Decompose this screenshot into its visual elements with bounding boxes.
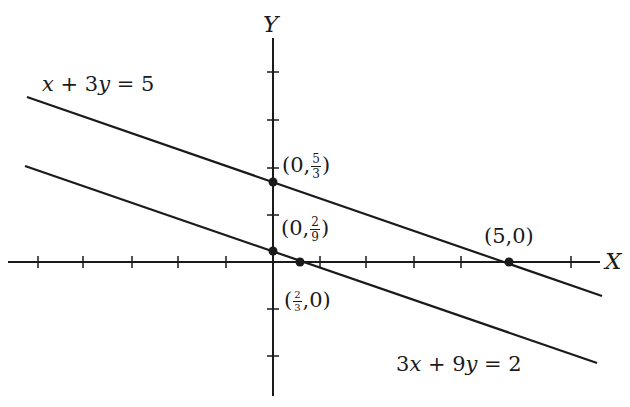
eq1-term: + 3 (54, 72, 98, 96)
point-5-0 (505, 258, 514, 267)
label-prefix: (0, (282, 153, 310, 177)
label-suffix: ) (322, 153, 330, 177)
eq1-var-y: y (98, 72, 110, 96)
point-2-3-0 (296, 258, 305, 267)
fraction-denominator: 3 (311, 167, 321, 180)
eq2-coef: 3 (396, 352, 409, 376)
label-point-0-2-9: (0,29) (281, 216, 329, 243)
two-parallel-lines-diagram: Y X x + 3y = 5 3x + 9y = 2 (0,53) (0,29)… (0, 0, 630, 407)
eq1-rhs: = 5 (110, 72, 154, 96)
fraction-numerator: 5 (311, 153, 321, 167)
x-axis-label: X (605, 250, 621, 273)
label-point-0-5-3: (0,53) (282, 153, 330, 180)
eq1-var-x: x (42, 72, 54, 96)
label-point-2-3-0: (23,0) (284, 290, 331, 313)
point-0-2-9 (269, 247, 278, 256)
fraction-numerator: 2 (293, 290, 301, 302)
y-axis-label: Y (263, 13, 278, 36)
eq2-term: + 9 (421, 352, 465, 376)
point-0-5-3 (269, 178, 278, 187)
label-suffix: ) (321, 216, 329, 240)
fraction-denominator: 9 (310, 230, 320, 243)
label-point-5-0: (5,0) (484, 226, 534, 247)
label-suffix: ,0) (303, 288, 331, 312)
eq2-var-y: y (466, 352, 478, 376)
fraction-denominator: 3 (293, 302, 301, 313)
diagram-canvas (0, 0, 630, 407)
eq2-var-x: x (409, 352, 421, 376)
fraction-5-3: 53 (311, 153, 321, 180)
label-prefix: (0, (281, 216, 309, 240)
fraction-2-3: 23 (293, 290, 301, 313)
eq2-rhs: = 2 (477, 352, 521, 376)
fraction-numerator: 2 (310, 216, 320, 230)
label-prefix: ( (284, 288, 292, 312)
equation-label-line-2: 3x + 9y = 2 (396, 354, 522, 375)
equation-label-line-1: x + 3y = 5 (42, 74, 154, 95)
fraction-2-9: 29 (310, 216, 320, 243)
